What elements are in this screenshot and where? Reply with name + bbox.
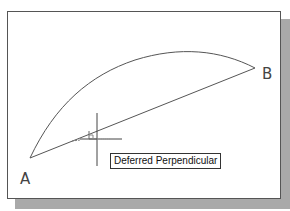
line-a-to-b[interactable] bbox=[30, 68, 255, 158]
extension-marker-icon bbox=[72, 140, 80, 141]
drawing-canvas bbox=[0, 0, 290, 211]
point-label-b: B bbox=[262, 65, 272, 83]
osnap-tooltip: Deferred Perpendicular bbox=[110, 153, 221, 169]
perpendicular-marker-icon bbox=[89, 131, 110, 139]
arc-a-to-b[interactable] bbox=[30, 52, 255, 158]
point-label-a: A bbox=[20, 170, 30, 188]
